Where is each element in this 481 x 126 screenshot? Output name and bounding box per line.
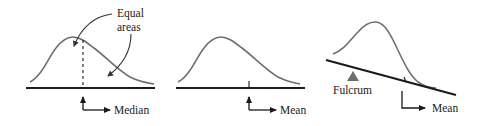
mean-label: Mean [432, 102, 458, 114]
mean-label: Mean [280, 104, 306, 116]
callout-label-line2: areas [117, 21, 141, 33]
panel-median: Equal areas Median [26, 7, 155, 116]
skewed-distribution-curve [178, 37, 300, 84]
panel-mean: Mean [176, 37, 306, 116]
diagram-canvas: Equal areas Median Mean Fulcrum Mean [0, 0, 481, 126]
fulcrum-label: Fulcrum [333, 84, 372, 96]
callout-label-line1: Equal [117, 7, 144, 20]
median-label: Median [114, 104, 149, 116]
callout-arrow-left-area [74, 14, 112, 46]
mean-pointer-arrow [402, 91, 425, 108]
fulcrum-triangle [347, 71, 359, 81]
skewed-distribution-curve [30, 37, 154, 84]
skewed-distribution-curve [333, 22, 436, 88]
panel-balance: Fulcrum Mean [326, 22, 458, 114]
